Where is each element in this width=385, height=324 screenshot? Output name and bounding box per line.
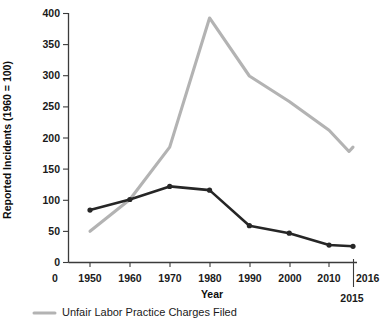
data-point: [247, 223, 252, 228]
data-point: [127, 197, 132, 202]
x-tick-label-2015: 2015: [340, 292, 364, 304]
data-point: [326, 242, 331, 247]
y-tick-label: 250: [42, 100, 60, 112]
x-axis-title: Year: [201, 288, 223, 300]
x-tick-label: 0: [52, 272, 58, 284]
chart-canvas: Reported Incidents (1960 = 100) 400 350 …: [0, 0, 385, 324]
y-tick-label: 300: [42, 69, 60, 81]
y-axis-tick-labels: 400 350 300 250 200 150 100 50 0: [42, 7, 60, 268]
data-point: [167, 184, 172, 189]
series-line-work-stoppages: [90, 186, 353, 246]
x-tick-label: 1970: [158, 272, 182, 284]
y-tick-label: 50: [48, 225, 60, 237]
x-tick-label: 1980: [198, 272, 222, 284]
x-tick-label: 1960: [118, 272, 142, 284]
y-axis: [63, 13, 69, 263]
data-point: [207, 188, 212, 193]
y-tick-label: 0: [54, 256, 60, 268]
line-chart: Reported Incidents (1960 = 100) 400 350 …: [0, 0, 385, 324]
y-tick-label: 350: [42, 38, 60, 50]
x-tick-label: 1950: [78, 272, 102, 284]
legend-item-label: Unfair Labor Practice Charges Filed: [62, 306, 237, 318]
x-tick-label: 1990: [238, 272, 262, 284]
x-tick-label-end: 2016: [356, 272, 380, 284]
y-axis-title: Reported Incidents (1960 = 100): [1, 61, 13, 219]
y-tick-label: 150: [42, 163, 60, 175]
data-point: [287, 231, 292, 236]
x-tick-label: 2010: [317, 272, 341, 284]
y-tick-label: 200: [42, 132, 60, 144]
legend: Unfair Labor Practice Charges Filed: [34, 306, 237, 318]
y-tick-label: 400: [42, 7, 60, 19]
data-point: [87, 208, 92, 213]
y-tick-label: 100: [42, 194, 60, 206]
data-point: [350, 244, 355, 249]
series-markers-work-stoppages: [87, 184, 355, 249]
x-tick-label: 2000: [278, 272, 302, 284]
